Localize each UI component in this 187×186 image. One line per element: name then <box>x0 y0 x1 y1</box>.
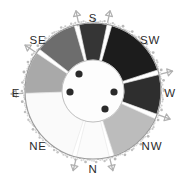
stipple-dot <box>155 59 157 61</box>
stipple-dot <box>25 109 27 111</box>
stipple-dot <box>112 22 114 24</box>
stipple-dot <box>66 156 68 158</box>
direction-label-sw: SW <box>140 34 160 46</box>
marker-3 <box>110 88 117 95</box>
stipple-dot <box>28 64 30 66</box>
stipple-dot <box>81 159 83 161</box>
stipple-dot <box>161 105 163 107</box>
stipple-dot <box>74 22 76 24</box>
stipple-dot <box>74 158 76 160</box>
stipple-dot <box>122 25 125 28</box>
stipple-dot <box>21 90 24 93</box>
stipple-dot <box>127 30 129 32</box>
direction-label-w: W <box>164 87 176 99</box>
stipple-dot <box>55 31 57 33</box>
stipple-dot <box>21 100 24 103</box>
marker-2 <box>66 88 73 95</box>
stipple-dot <box>118 25 120 27</box>
stipple-dot <box>78 21 80 23</box>
compass-rose-figure: SSESWEWNENWN <box>0 0 187 186</box>
stipple-dot <box>41 138 43 140</box>
stipple-dot <box>56 151 58 153</box>
stipple-dot <box>160 74 162 76</box>
stipple-dot <box>114 158 117 161</box>
stipple-dot <box>157 117 159 119</box>
stipple-dot <box>131 30 134 33</box>
stipple-dot <box>51 32 53 34</box>
stipple-dot <box>35 131 37 133</box>
stipple-dot <box>157 119 160 122</box>
stipple-dot <box>152 126 154 128</box>
stipple-dot <box>53 31 55 33</box>
stipple-dot <box>110 158 112 160</box>
stipple-dot <box>26 68 28 70</box>
stipple-dot <box>153 56 155 58</box>
stipple-dot <box>23 80 25 82</box>
stipple-dot <box>93 160 95 162</box>
stipple-dot <box>24 76 26 78</box>
stipple-dot <box>73 157 75 159</box>
direction-label-n: N <box>88 163 97 175</box>
stipple-dot <box>73 23 75 25</box>
stipple-dot <box>62 154 64 156</box>
stipple-dot <box>38 136 40 138</box>
stipple-dot <box>23 71 26 74</box>
stipple-dot <box>83 159 85 161</box>
marker-1 <box>75 70 82 77</box>
direction-label-ne: NE <box>29 140 47 152</box>
stipple-dot <box>99 20 101 22</box>
stipple-dot <box>127 150 129 152</box>
stipple-dot <box>77 158 79 160</box>
stipple-dot <box>22 92 24 94</box>
stipple-dot <box>30 58 32 60</box>
stipple-dot <box>82 20 84 22</box>
stipple-dot <box>35 129 37 131</box>
stipple-dot <box>101 21 103 23</box>
stipple-dot <box>70 23 72 25</box>
stipple-dot <box>29 120 31 122</box>
stipple-dot <box>48 35 50 37</box>
stipple-dot <box>121 153 123 155</box>
stipple-dot <box>158 115 160 117</box>
stipple-dot <box>106 159 108 161</box>
stipple-dot <box>103 160 105 162</box>
stipple-dot <box>103 20 105 22</box>
stipple-dot <box>124 153 127 156</box>
stipple-dot <box>48 145 50 147</box>
stipple-dot <box>85 21 87 23</box>
stipple-dot <box>47 143 49 145</box>
compass-rose-svg: SSESWEWNENWN <box>0 0 187 186</box>
stipple-dot <box>161 100 163 102</box>
direction-label-s: S <box>89 12 97 24</box>
stipple-dot <box>27 61 30 64</box>
stipple-dot <box>31 53 33 55</box>
stipple-dot <box>32 128 35 131</box>
direction-label-e: E <box>12 87 20 99</box>
stipple-dot <box>81 21 83 23</box>
stipple-dot <box>160 109 163 112</box>
stipple-dot <box>132 147 134 149</box>
stipple-dot <box>150 51 152 53</box>
stipple-dot <box>65 154 67 156</box>
stipple-dot <box>53 149 55 151</box>
stipple-dot <box>108 22 110 24</box>
stipple-dot <box>114 24 116 26</box>
stipple-dot <box>149 131 151 133</box>
stipple-dot <box>99 159 101 161</box>
stipple-dot <box>21 81 24 84</box>
stipple-dot <box>129 31 131 33</box>
direction-label-nw: NW <box>142 140 163 152</box>
direction-label-se: SE <box>30 34 47 46</box>
stipple-dot <box>147 135 150 138</box>
stipple-dot <box>162 79 165 82</box>
stipple-dot <box>27 115 29 117</box>
stipple-dot <box>91 160 93 162</box>
stipple-dot <box>84 161 87 164</box>
stipple-dot <box>63 27 65 29</box>
stipple-dot <box>152 51 155 54</box>
stipple-dot <box>70 157 72 159</box>
stipple-dot <box>23 86 25 88</box>
stipple-dot <box>60 26 63 29</box>
stipple-dot <box>56 149 58 151</box>
stipple-dot <box>157 66 159 68</box>
